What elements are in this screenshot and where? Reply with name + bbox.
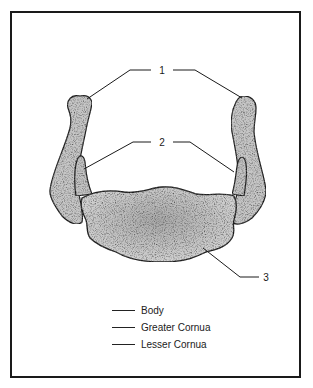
hyoid-body — [81, 187, 236, 262]
callout-label-2: 2 — [159, 137, 165, 148]
legend-item-lesser-cornua: Lesser Cornua — [112, 336, 210, 353]
lesser-cornu-right — [232, 157, 247, 196]
legend-label: Lesser Cornua — [141, 339, 207, 350]
legend-label: Greater Cornua — [141, 322, 210, 333]
callout-label-1: 1 — [159, 65, 165, 76]
callout-line-2-right — [173, 142, 234, 172]
legend-label: Body — [141, 305, 164, 316]
legend: Body Greater Cornua Lesser Cornua — [112, 302, 210, 353]
legend-line — [112, 344, 135, 345]
callout-line-3 — [203, 248, 259, 277]
callout-line-1-left — [87, 70, 151, 99]
callout-label-3: 3 — [263, 272, 269, 283]
legend-line — [112, 327, 135, 328]
callout-line-1-right — [173, 70, 242, 98]
lesser-cornu-left — [75, 156, 92, 196]
callout-line-2-left — [84, 142, 151, 169]
legend-line — [112, 310, 135, 311]
legend-item-body: Body — [112, 302, 210, 319]
legend-item-greater-cornua: Greater Cornua — [112, 319, 210, 336]
